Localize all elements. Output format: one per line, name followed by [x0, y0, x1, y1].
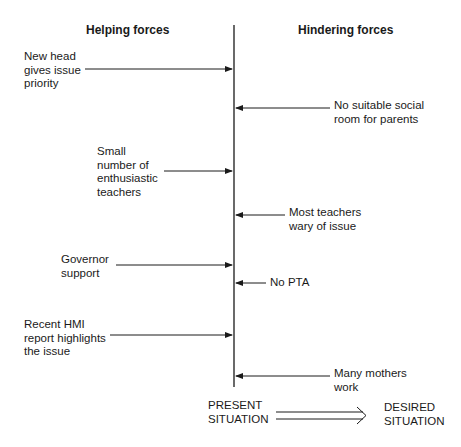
desired-situation-label: DESIRED SITUATION	[384, 401, 444, 428]
hindering-force-4: Many mothers work	[334, 367, 407, 394]
hindering-forces-heading: Hindering forces	[298, 23, 393, 37]
hindering-force-2: Most teachers wary of issue	[289, 206, 361, 233]
helping-force-3: Governor support	[61, 253, 109, 280]
hindering-force-1: No suitable social room for parents	[334, 99, 424, 126]
helping-force-2: Small number of enthusiastic teachers	[97, 145, 158, 199]
double-arrow-icon	[276, 407, 366, 424]
helping-forces-heading: Helping forces	[86, 23, 169, 37]
present-situation-label: PRESENT SITUATION	[208, 399, 268, 426]
helping-force-4: Recent HMI report highlights the issue	[24, 318, 106, 359]
hindering-force-3: No PTA	[270, 276, 309, 290]
helping-force-1: New head gives issue priority	[24, 50, 81, 91]
